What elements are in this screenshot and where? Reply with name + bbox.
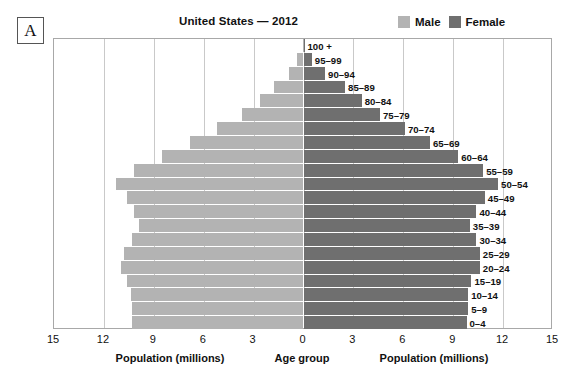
- bar-female: [304, 108, 381, 121]
- chart-legend: Male Female: [398, 16, 505, 28]
- bar-male: [190, 136, 303, 149]
- chart-title-text: United States — 2012: [179, 15, 298, 27]
- bar-male: [121, 261, 304, 274]
- bar-row: 50–54: [54, 178, 551, 192]
- age-group-label: 35–39: [470, 221, 500, 232]
- bar-rows: 100 +95–9990–9485–8980–8475–7970–7465–69…: [54, 39, 551, 328]
- age-group-label: 95–99: [312, 54, 342, 65]
- age-group-label: 90–94: [325, 68, 355, 79]
- bar-row: 0–4: [54, 316, 551, 330]
- axis-caption-right: Population (millions): [380, 352, 489, 364]
- bar-row: 25–29: [54, 247, 551, 261]
- legend-item-male: Male: [398, 16, 441, 28]
- chart-figure: A United States — 2012 Male Female 100 +…: [0, 0, 577, 385]
- bar-female: [304, 191, 485, 204]
- age-group-label: 10–14: [468, 290, 498, 301]
- bar-male: [131, 288, 304, 301]
- legend-label-male: Male: [415, 16, 441, 28]
- bar-male: [162, 150, 303, 163]
- age-group-label: 40–44: [476, 207, 506, 218]
- bar-row: 5–9: [54, 302, 551, 316]
- bar-male: [132, 302, 303, 315]
- bar-row: 35–39: [54, 219, 551, 233]
- x-axis-tick-label: 3: [349, 333, 355, 345]
- bar-male: [134, 164, 304, 177]
- x-axis-tick-label: 3: [250, 333, 256, 345]
- x-axis-tick-label: 6: [399, 333, 405, 345]
- age-group-label: 80–84: [362, 96, 392, 107]
- bar-male: [127, 191, 303, 204]
- bar-female: [304, 316, 467, 329]
- bar-row: 40–44: [54, 205, 551, 219]
- bar-row: 55–59: [54, 164, 551, 178]
- bar-male: [289, 67, 304, 80]
- bar-row: 20–24: [54, 261, 551, 275]
- bar-male: [242, 108, 304, 121]
- bar-male: [132, 233, 303, 246]
- x-axis-tick-label: 12: [97, 333, 109, 345]
- x-axis-tick-label: 9: [449, 333, 455, 345]
- male-swatch: [398, 16, 410, 28]
- bar-male: [139, 219, 304, 232]
- x-axis-tick-label: 15: [546, 333, 558, 345]
- bar-female: [304, 261, 480, 274]
- bar-row: 85–89: [54, 81, 551, 95]
- bar-row: 80–84: [54, 94, 551, 108]
- axis-caption-left: Population (millions): [116, 352, 225, 364]
- age-group-label: 15–19: [471, 276, 501, 287]
- bar-female: [304, 122, 405, 135]
- bar-row: 100 +: [54, 39, 551, 53]
- bar-female: [304, 81, 346, 94]
- bar-row: 75–79: [54, 108, 551, 122]
- legend-item-female: Female: [449, 16, 506, 28]
- age-group-label: 75–79: [380, 110, 410, 121]
- bar-row: 65–69: [54, 136, 551, 150]
- age-group-label: 0–4: [467, 318, 486, 329]
- bar-male: [127, 275, 303, 288]
- age-group-label: 60–64: [458, 151, 488, 162]
- age-group-label: 55–59: [483, 165, 513, 176]
- bar-male: [134, 205, 304, 218]
- bar-row: 45–49: [54, 191, 551, 205]
- bar-female: [304, 150, 459, 163]
- bar-row: 30–34: [54, 233, 551, 247]
- plot-area: 100 +95–9990–9485–8980–8475–7970–7465–69…: [53, 38, 552, 329]
- age-group-label: 70–74: [405, 124, 435, 135]
- bar-female: [304, 288, 469, 301]
- axis-caption-center: Age group: [275, 352, 330, 364]
- bar-female: [304, 94, 362, 107]
- age-group-label: 25–29: [480, 248, 510, 259]
- bar-male: [217, 122, 303, 135]
- bar-male: [274, 81, 304, 94]
- age-group-label: 65–69: [430, 137, 460, 148]
- bar-row: 90–94: [54, 67, 551, 81]
- bar-row: 60–64: [54, 150, 551, 164]
- bar-male: [124, 247, 304, 260]
- bar-female: [304, 275, 472, 288]
- x-axis-tick-label: 12: [496, 333, 508, 345]
- legend-label-female: Female: [466, 16, 506, 28]
- bar-row: 95–99: [54, 53, 551, 67]
- female-swatch: [449, 16, 461, 28]
- bar-female: [304, 205, 477, 218]
- bar-male: [116, 178, 304, 191]
- bar-row: 15–19: [54, 275, 551, 289]
- bar-male: [260, 94, 303, 107]
- bar-female: [304, 233, 477, 246]
- bar-female: [304, 178, 499, 191]
- age-group-label: 5–9: [468, 304, 487, 315]
- bar-male: [132, 316, 303, 329]
- bar-female: [304, 164, 484, 177]
- bar-row: 10–14: [54, 288, 551, 302]
- bar-female: [304, 67, 326, 80]
- bar-female: [304, 53, 312, 66]
- age-group-label: 100 +: [304, 40, 331, 51]
- bar-female: [304, 302, 469, 315]
- age-group-label: 30–34: [476, 234, 506, 245]
- age-group-label: 85–89: [345, 82, 375, 93]
- bar-female: [304, 247, 480, 260]
- bar-female: [304, 136, 430, 149]
- bar-female: [304, 219, 470, 232]
- age-group-label: 20–24: [480, 262, 510, 273]
- bar-row: 70–74: [54, 122, 551, 136]
